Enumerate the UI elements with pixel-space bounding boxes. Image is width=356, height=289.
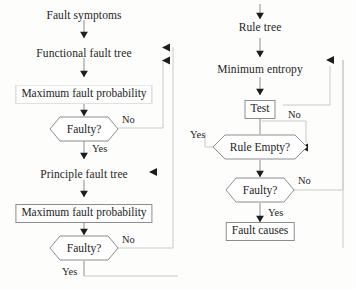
edge-label-faulty1-no: No	[122, 115, 135, 126]
node-functional-fault-tree: Functional fault tree	[36, 48, 131, 60]
edge-label-faulty2-yes: Yes	[62, 267, 77, 278]
node-fault-symptoms: Fault symptoms	[46, 10, 121, 22]
node-maximum-fault-probability-2: Maximum fault probability	[15, 204, 152, 223]
feedback-arrow-entropy	[326, 56, 334, 64]
feedback-arrow-top	[162, 44, 170, 52]
decision-faulty-1-label: Faulty?	[49, 124, 119, 136]
decision-faulty-1: Faulty?	[49, 116, 119, 142]
edge-label-faulty1-yes: Yes	[92, 144, 107, 155]
flowchart-diagram: Fault symptoms Functional fault tree Max…	[0, 0, 356, 289]
decision-rule-empty: Rule Empty?	[212, 134, 308, 160]
node-fault-causes: Fault causes	[226, 222, 295, 241]
edge-label-faulty-right-yes: Yes	[268, 208, 283, 219]
feedback-arrow-principle	[149, 168, 157, 176]
node-test: Test	[245, 100, 276, 119]
decision-rule-empty-label: Rule Empty?	[212, 142, 308, 154]
node-maximum-fault-probability-1: Maximum fault probability	[15, 85, 152, 104]
decision-faulty-right: Faulty?	[225, 177, 295, 203]
edge-label-faulty2-no: No	[122, 235, 135, 246]
node-rule-tree: Rule tree	[239, 22, 282, 34]
decision-faulty-right-label: Faulty?	[225, 185, 295, 197]
edge-label-rule-empty-no: No	[288, 110, 301, 121]
node-minimum-entropy: Minimum entropy	[217, 64, 303, 76]
edge-label-rule-empty-yes: Yes	[190, 130, 205, 141]
edge-label-faulty-right-no: No	[298, 176, 311, 187]
feedback-arrow-second	[162, 57, 170, 65]
decision-faulty-2: Faulty?	[49, 235, 119, 261]
decision-faulty-2-label: Faulty?	[49, 243, 119, 255]
node-principle-fault-tree: Principle fault tree	[40, 169, 128, 181]
